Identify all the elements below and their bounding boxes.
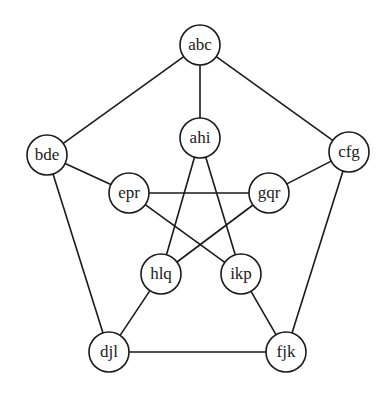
graph-diagram: abcahibdecfgeprgqrhlqikpdjlfjk xyxy=(0,0,392,396)
edge-cfg-fjk xyxy=(292,171,343,333)
node-label: fjk xyxy=(277,342,296,361)
edge-abc-bde xyxy=(63,57,184,144)
edge-hlq-djl xyxy=(120,291,150,336)
node-label: bde xyxy=(35,145,60,164)
node-bde: bde xyxy=(27,135,67,175)
node-fjk: fjk xyxy=(266,332,306,372)
node-label: epr xyxy=(118,183,140,202)
edge-ahi-hlq xyxy=(167,157,195,255)
graph-svg: abcahibdecfgeprgqrhlqikpdjlfjk xyxy=(0,0,392,396)
node-epr: epr xyxy=(109,173,149,213)
node-label: gqr xyxy=(258,183,281,202)
node-djl: djl xyxy=(89,332,129,372)
edge-cfg-gqr xyxy=(287,161,331,184)
node-gqr: gqr xyxy=(249,173,289,213)
node-label: ahi xyxy=(190,128,211,147)
edge-bde-djl xyxy=(53,174,103,333)
node-hlq: hlq xyxy=(141,254,181,294)
edge-ahi-ikp xyxy=(206,157,235,255)
node-ikp: ikp xyxy=(221,254,261,294)
edge-bde-epr xyxy=(65,163,111,184)
edges-layer xyxy=(53,57,343,352)
node-label: cfg xyxy=(338,142,360,161)
edge-ikp-fjk xyxy=(251,291,276,334)
node-label: ikp xyxy=(230,264,252,283)
node-abc: abc xyxy=(180,25,220,65)
node-cfg: cfg xyxy=(329,132,369,172)
node-label: hlq xyxy=(150,264,172,283)
nodes-layer: abcahibdecfgeprgqrhlqikpdjlfjk xyxy=(27,25,369,372)
node-label: djl xyxy=(100,342,118,361)
node-ahi: ahi xyxy=(180,118,220,158)
node-label: abc xyxy=(188,35,212,54)
edge-abc-cfg xyxy=(216,57,333,141)
